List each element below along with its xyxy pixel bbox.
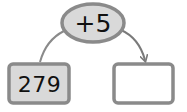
operator-label: +5 (60, 3, 126, 43)
start-number-label: 279 (9, 64, 70, 104)
result-answer-label[interactable] (113, 64, 174, 104)
